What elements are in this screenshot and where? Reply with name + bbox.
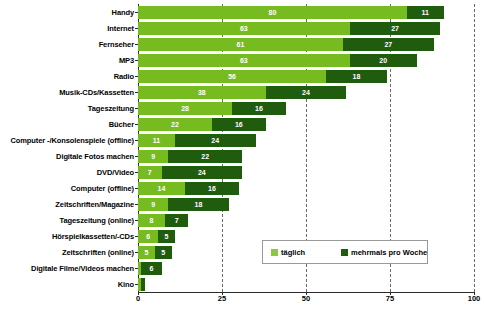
category-label: Digitale Filme/Videos machen [0, 262, 134, 275]
category-label: Hörspielkassetten/-CDs [0, 230, 134, 243]
bar-segment-taeglich: 7 [138, 166, 162, 179]
bar-segment-taeglich: 63 [138, 54, 350, 67]
bar-value-mehrmals: 11 [407, 6, 444, 19]
x-tick-label: 25 [202, 294, 242, 303]
category-label: Handy [0, 6, 134, 19]
bar-segment-mehrmals: 18 [326, 70, 386, 83]
chart-legend: täglich mehrmals pro Woche [262, 240, 428, 264]
legend-item-taeglich: täglich [271, 248, 305, 258]
bar-value-mehrmals: 18 [168, 198, 228, 211]
bar-value-mehrmals: 24 [175, 134, 256, 147]
bar-value-mehrmals: 27 [350, 22, 441, 35]
bar-segment-mehrmals: 24 [266, 86, 347, 99]
category-label: Musik-CDs/Kassetten [0, 86, 134, 99]
category-label: Computer (offline) [0, 182, 134, 195]
bar-row: Bücher2216 [138, 118, 474, 131]
bar-segment-mehrmals: 6 [141, 262, 161, 275]
bar-segment-mehrmals: 24 [175, 134, 256, 147]
category-label: Computer -/Konsolenspiele (offline) [0, 134, 134, 147]
bar-value-taeglich: 11 [138, 134, 175, 147]
bar-chart: Handy8011Internet6327Fernseher6127MP3632… [0, 0, 484, 317]
bar-row: Radio5618 [138, 70, 474, 83]
bar-segment-mehrmals [141, 278, 144, 291]
bar-segment-mehrmals: 11 [407, 6, 444, 19]
bar-segment-mehrmals: 20 [350, 54, 417, 67]
legend-item-mehrmals: mehrmals pro Woche [341, 248, 427, 258]
bar-value-mehrmals: 18 [326, 70, 386, 83]
bar-value-mehrmals: 16 [232, 102, 286, 115]
category-label: MP3 [0, 54, 134, 67]
bar-value-mehrmals: 7 [165, 214, 189, 227]
bar-segment-taeglich: 14 [138, 182, 185, 195]
bar-value-mehrmals: 5 [155, 246, 172, 259]
bar-value-taeglich: 38 [138, 86, 266, 99]
bar-segment-taeglich: 6 [138, 230, 158, 243]
category-label: Bücher [0, 118, 134, 131]
bar-segment-mehrmals: 7 [165, 214, 189, 227]
bar-segment-taeglich: 22 [138, 118, 212, 131]
bar-row: Internet6327 [138, 22, 474, 35]
bar-segment-taeglich: 8 [138, 214, 165, 227]
bar-row: Tageszeitung2816 [138, 102, 474, 115]
bar-row: Musik-CDs/Kassetten3824 [138, 86, 474, 99]
x-tick-label: 75 [370, 294, 410, 303]
bar-value-taeglich: 22 [138, 118, 212, 131]
bar-row: Fernseher6127 [138, 38, 474, 51]
bar-value-taeglich: 8 [138, 214, 165, 227]
bar-value-mehrmals: 16 [185, 182, 239, 195]
bar-value-taeglich: 6 [138, 230, 158, 243]
bar-segment-taeglich: 5 [138, 246, 155, 259]
bar-row: DVD/Video724 [138, 166, 474, 179]
category-label: Fernseher [0, 38, 134, 51]
x-tick-label: 100 [454, 294, 484, 303]
bar-value-taeglich: 61 [138, 38, 343, 51]
bar-value-taeglich: 7 [138, 166, 162, 179]
bar-row: Computer -/Konsolenspiele (offline)1124 [138, 134, 474, 147]
bar-value-taeglich: 9 [138, 198, 168, 211]
bar-segment-mehrmals: 27 [343, 38, 434, 51]
bar-value-mehrmals: 6 [141, 262, 161, 275]
bar-value-taeglich: 28 [138, 102, 232, 115]
bar-segment-mehrmals: 5 [158, 230, 175, 243]
bar-value-mehrmals: 16 [212, 118, 266, 131]
bar-row: Kino [138, 278, 474, 291]
bar-row: Digitale Fotos machen922 [138, 150, 474, 163]
category-label: Internet [0, 22, 134, 35]
bar-segment-mehrmals: 16 [232, 102, 286, 115]
legend-label-taeglich: täglich [281, 248, 305, 257]
legend-label-mehrmals: mehrmals pro Woche [351, 248, 427, 257]
bar-segment-taeglich: 63 [138, 22, 350, 35]
bar-value-taeglich: 80 [138, 6, 407, 19]
bar-row: Handy8011 [138, 6, 474, 19]
category-label: Radio [0, 70, 134, 83]
bar-segment-taeglich: 61 [138, 38, 343, 51]
bar-value-mehrmals: 5 [158, 230, 175, 243]
category-label: Tageszeitung [0, 102, 134, 115]
bar-segment-taeglich: 28 [138, 102, 232, 115]
bar-segment-taeglich: 9 [138, 150, 168, 163]
bar-segment-taeglich: 11 [138, 134, 175, 147]
gridline-100 [474, 4, 475, 292]
bar-segment-mehrmals: 5 [155, 246, 172, 259]
bar-segment-taeglich: 9 [138, 198, 168, 211]
bar-value-taeglich: 14 [138, 182, 185, 195]
category-label: Zeitschriften/Magazine [0, 198, 134, 211]
category-label: Digitale Fotos machen [0, 150, 134, 163]
bar-value-taeglich: 5 [138, 246, 155, 259]
bar-segment-mehrmals: 16 [185, 182, 239, 195]
bar-value-mehrmals: 20 [350, 54, 417, 67]
x-tick-label: 50 [286, 294, 326, 303]
bar-value-mehrmals: 22 [168, 150, 242, 163]
category-label: Zeitschriften (online) [0, 246, 134, 259]
bar-value-taeglich: 9 [138, 150, 168, 163]
bar-segment-mehrmals: 18 [168, 198, 228, 211]
category-label: DVD/Video [0, 166, 134, 179]
bar-value-taeglich: 63 [138, 22, 350, 35]
bar-value-taeglich: 56 [138, 70, 326, 83]
bar-segment-taeglich: 38 [138, 86, 266, 99]
bar-row: Computer (offline)1416 [138, 182, 474, 195]
x-tick-label: 0 [118, 294, 158, 303]
bar-value-mehrmals: 24 [266, 86, 347, 99]
bar-segment-mehrmals: 24 [162, 166, 243, 179]
category-label: Tageszeitung (online) [0, 214, 134, 227]
